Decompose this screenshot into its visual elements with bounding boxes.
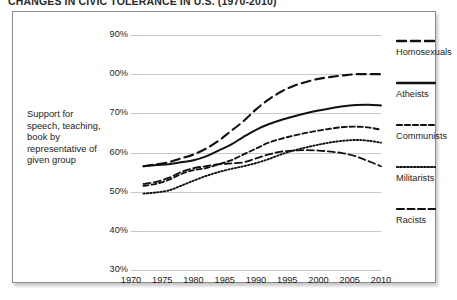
y-axis-tick-label: 40%	[88, 225, 128, 235]
x-axis-tick-label: 1985	[208, 275, 242, 285]
series-line-racists	[144, 150, 382, 184]
legend-swatch-atheists	[396, 78, 436, 88]
y-axis-tick-label: 30%	[88, 264, 128, 274]
chart-title: CHANGES IN CIVIC TOLERANCE IN U.S. (1970…	[8, 0, 438, 7]
legend-item-militarists[interactable]: Militarists	[396, 162, 457, 183]
legend-item-racists[interactable]: Racists	[396, 204, 457, 225]
x-axis-tick-label: 1975	[145, 275, 179, 285]
x-axis-tick-label: 2000	[302, 275, 336, 285]
x-axis-tick-label: 1990	[239, 275, 273, 285]
legend-label: Homosexuals	[396, 47, 457, 57]
legend-item-communists[interactable]: Communists	[396, 120, 457, 141]
y-axis-tick-label: 70%	[88, 107, 128, 117]
series-lines	[131, 35, 381, 270]
legend-item-homosexuals[interactable]: Homosexuals	[396, 36, 457, 57]
y-axis-tick-label: 50%	[88, 186, 128, 196]
x-axis-tick-label: 1970	[114, 275, 148, 285]
y-axis-tick-label: 60%	[88, 147, 128, 157]
x-axis-tick-label: 1980	[177, 275, 211, 285]
legend-swatch-homosexuals	[396, 36, 436, 46]
legend-label: Communists	[396, 131, 457, 141]
legend-swatch-militarists	[396, 162, 436, 172]
plot-area: 90%00%70%60%50%40%30% 197019751980198519…	[131, 35, 381, 270]
chart-card: Support for speech, teaching, book by re…	[12, 11, 436, 283]
legend-label: Militarists	[396, 173, 457, 183]
legend-label: Atheists	[396, 89, 457, 99]
x-axis-tick-label: 2010	[364, 275, 398, 285]
legend-label: Racists	[396, 215, 457, 225]
series-line-homosexuals	[144, 74, 382, 166]
x-axis-tick-label: 1995	[270, 275, 304, 285]
legend-swatch-racists	[396, 204, 436, 214]
series-line-militarists	[144, 140, 382, 194]
legend-item-atheists[interactable]: Atheists	[396, 78, 457, 99]
legend-swatch-communists	[396, 120, 436, 130]
y-axis-tick-label: 00%	[88, 68, 128, 78]
gridline	[131, 270, 381, 271]
x-axis-tick-label: 2005	[333, 275, 367, 285]
y-axis-tick-label: 90%	[88, 29, 128, 39]
